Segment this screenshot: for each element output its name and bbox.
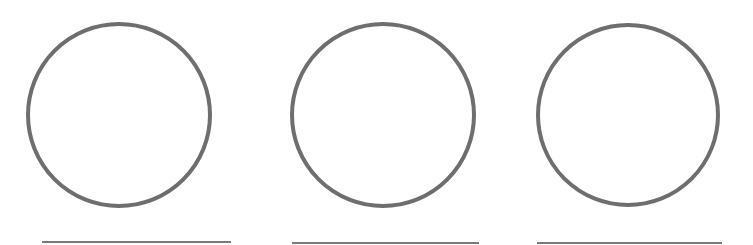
worksheet-diagram	[0, 0, 753, 245]
background	[0, 0, 753, 245]
